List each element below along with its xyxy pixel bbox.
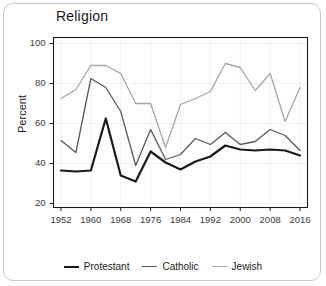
y-tick-label: 40	[22, 157, 46, 168]
x-tick-label: 1960	[74, 214, 108, 225]
y-tick-label: 20	[22, 197, 46, 208]
legend-label: Catholic	[162, 261, 198, 272]
legend-line-icon	[142, 266, 157, 267]
line-chart-plot	[0, 0, 326, 286]
legend-label: Jewish	[232, 261, 263, 272]
legend-item-jewish[interactable]: Jewish	[212, 261, 263, 272]
x-tick-label: 1976	[134, 214, 168, 225]
legend-line-icon	[64, 266, 79, 268]
chart-figure: Religion Percent 20406080100 19521960196…	[0, 0, 326, 286]
x-tick-label: 2016	[283, 214, 317, 225]
x-tick-label: 2000	[223, 214, 257, 225]
legend-item-protestant[interactable]: Protestant	[64, 261, 130, 272]
y-tick-label: 100	[22, 37, 46, 48]
legend-label: Protestant	[84, 261, 130, 272]
legend-line-icon	[212, 266, 227, 267]
chart-legend: ProtestantCatholicJewish	[0, 261, 326, 272]
y-tick-label: 60	[22, 117, 46, 128]
y-tick-label: 80	[22, 77, 46, 88]
legend-item-catholic[interactable]: Catholic	[142, 261, 198, 272]
